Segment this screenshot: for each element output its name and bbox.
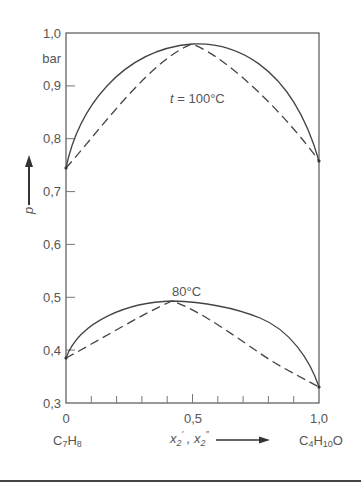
svg-text:0,3: 0,3	[43, 396, 61, 411]
svg-text:0,9: 0,9	[43, 78, 61, 93]
x-tick-labels: 0 0,5 1,0	[62, 411, 328, 426]
boiling-line-80c	[66, 301, 319, 387]
svg-text:0,5: 0,5	[43, 290, 61, 305]
vapor-pressure-chart: 1,0 0,9 0,8 0,7 0,6 0,5 0,4 0,3 bar p t …	[0, 0, 361, 483]
svg-text:0,5: 0,5	[184, 411, 202, 426]
bottom-divider	[0, 480, 361, 482]
svg-text:0: 0	[62, 411, 69, 426]
arrow-right-icon	[259, 437, 270, 444]
right-component-label: C4H10O	[299, 433, 343, 449]
x-ticks	[91, 394, 293, 403]
y-unit-label: bar	[42, 51, 61, 66]
svg-text:0,8: 0,8	[43, 131, 61, 146]
dew-line-100c	[66, 44, 319, 168]
left-component-label: C7H8	[53, 433, 82, 449]
svg-text:p: p	[21, 207, 36, 215]
y-axis-label: p	[21, 155, 36, 215]
svg-text:0,7: 0,7	[43, 184, 61, 199]
endpoint-markers	[64, 159, 320, 388]
svg-text:0,4: 0,4	[43, 343, 61, 358]
y-ticks	[66, 86, 75, 350]
arrow-up-icon	[25, 155, 33, 167]
annotation-80c: 80°C	[172, 284, 201, 299]
y-tick-labels: 1,0 0,9 0,8 0,7 0,6 0,5 0,4 0,3	[43, 26, 61, 411]
dew-line-80c	[66, 301, 319, 387]
svg-text:1,0: 1,0	[43, 26, 61, 41]
svg-text:1,0: 1,0	[310, 411, 328, 426]
svg-text:0,6: 0,6	[43, 237, 61, 252]
x-axis-label: x2′ , x2″	[169, 429, 270, 448]
annotation-100c: t = 100°C	[170, 91, 225, 106]
svg-text:x2′ , x2″: x2′ , x2″	[169, 429, 210, 448]
